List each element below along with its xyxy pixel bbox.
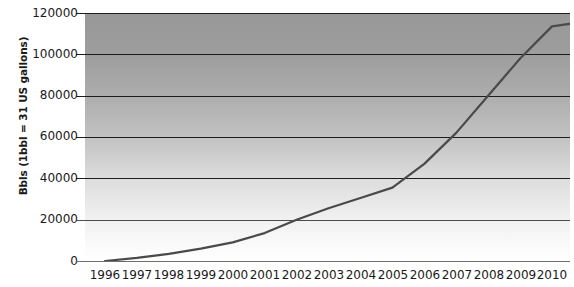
y-tick-label: 40000 [14, 172, 78, 184]
y-tick-label: 60000 [14, 130, 78, 142]
y-tick-label: 80000 [14, 89, 78, 101]
y-axis-tick-labels: 120000 100000 80000 60000 40000 20000 0 [12, 0, 78, 287]
x-tick-label: 2010 [532, 266, 572, 284]
y-tick-label: 20000 [14, 213, 78, 225]
series-line-bbls [85, 13, 570, 261]
x-axis-line [85, 261, 570, 262]
x-axis-tick-labels: 1996 1997 1998 1999 2000 2001 2002 2003 … [0, 266, 574, 287]
y-tick-label: 120000 [14, 7, 78, 19]
line-chart: Bbls (1bbl = 31 US gallons) 120000 10000… [0, 0, 574, 287]
x-axis-tick-mark [76, 261, 85, 262]
series-polyline [105, 24, 570, 261]
y-tick-mark [76, 137, 85, 138]
y-tick-mark [76, 96, 85, 97]
y-tick-mark [76, 54, 85, 55]
y-tick-mark [76, 13, 85, 14]
y-tick-mark [76, 178, 85, 179]
y-tick-label: 100000 [14, 48, 78, 60]
y-tick-mark [76, 220, 85, 221]
